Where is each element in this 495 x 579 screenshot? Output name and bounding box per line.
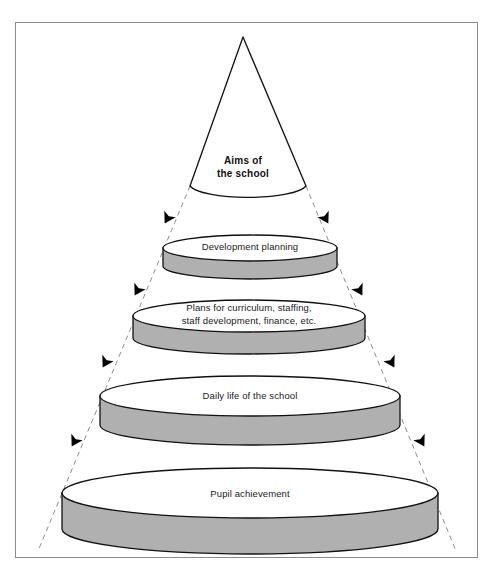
disc-daily-life bbox=[100, 376, 400, 445]
arrow-left-4 bbox=[66, 434, 83, 450]
disc-label-daily-life: Daily life of the school bbox=[150, 390, 350, 403]
arrow-left-1 bbox=[159, 211, 176, 227]
arrow-right-3 bbox=[383, 355, 400, 371]
apex-label-aims-of-the-school: Aims of the school bbox=[183, 154, 303, 180]
arrow-left-2 bbox=[129, 283, 146, 299]
figure-page: Aims of the school Development planning … bbox=[0, 0, 495, 579]
arrow-right-4 bbox=[413, 434, 430, 450]
disc-label-development-planning: Development planning bbox=[160, 241, 340, 254]
disc-pupil-achievement bbox=[62, 468, 438, 554]
disc-label-pupil-achievement: Pupil achievement bbox=[150, 488, 350, 501]
arrow-right-1 bbox=[317, 211, 334, 227]
arrow-left-3 bbox=[97, 355, 114, 371]
arrow-right-2 bbox=[351, 283, 368, 299]
disc-label-plans-for-curriculum: Plans for curriculum, staffing, staff de… bbox=[129, 302, 369, 327]
